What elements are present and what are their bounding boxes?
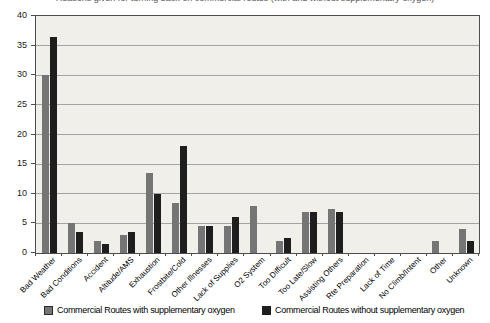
bar-with-oxygen (120, 235, 127, 253)
category-group (166, 16, 192, 253)
bar-with-oxygen (250, 206, 257, 253)
category-group (245, 16, 271, 253)
category-group (427, 16, 453, 253)
x-axis-tick (87, 253, 88, 256)
x-axis-tick (348, 253, 349, 256)
x-axis-tick (139, 253, 140, 256)
x-axis-label: Unknown (445, 256, 474, 285)
category-group (88, 16, 114, 253)
x-axis-label: Other (429, 256, 449, 276)
bar-with-oxygen (42, 75, 49, 253)
legend-item-without-oxygen: Commercial Routes without supplementary … (262, 305, 464, 315)
x-axis-tick (374, 253, 375, 256)
x-axis-tick (113, 253, 114, 256)
bar-without-oxygen (128, 232, 135, 253)
x-axis-tick (452, 253, 453, 256)
x-axis-tick (243, 253, 244, 256)
bar-with-oxygen (432, 241, 439, 253)
x-axis-tick (270, 253, 271, 256)
category-group (192, 16, 218, 253)
x-axis-tick (400, 253, 401, 256)
legend-label-with-oxygen: Commercial Routes with supplementary oxy… (57, 305, 235, 315)
bar-without-oxygen (180, 146, 187, 253)
bar-without-oxygen (232, 217, 239, 253)
bar-without-oxygen (336, 212, 343, 253)
x-axis-tick (61, 253, 62, 256)
category-group (349, 16, 375, 253)
bar-chart: Reasons given for turning back on commer… (0, 0, 490, 323)
category-group (140, 16, 166, 253)
y-axis-tick-label: 15 (0, 159, 27, 168)
legend-label-without-oxygen: Commercial Routes without supplementary … (275, 305, 464, 315)
bar-with-oxygen (198, 226, 205, 253)
clipped-chart-title: Reasons given for turning back on commer… (0, 0, 490, 3)
bar-series (36, 16, 479, 253)
category-group (36, 16, 62, 253)
y-axis-tick-label: 30 (0, 70, 27, 79)
x-axis-tick (322, 253, 323, 256)
y-axis-tick-label: 40 (0, 11, 27, 20)
category-group (323, 16, 349, 253)
bar-without-oxygen (76, 232, 83, 253)
x-axis-tick (296, 253, 297, 256)
plot-area (35, 15, 480, 254)
legend: Commercial Routes with supplementary oxy… (0, 305, 490, 317)
legend-swatch-with-oxygen-icon (44, 306, 53, 315)
legend-swatch-without-oxygen-icon (262, 306, 271, 315)
bar-without-oxygen (310, 212, 317, 253)
category-group (297, 16, 323, 253)
category-group (401, 16, 427, 253)
x-axis-tick (165, 253, 166, 256)
x-axis-tick (217, 253, 218, 256)
bar-without-oxygen (467, 241, 474, 253)
y-axis-tick-label: 10 (0, 189, 27, 198)
y-axis-tick-label: 5 (0, 218, 27, 227)
category-group (375, 16, 401, 253)
bar-without-oxygen (50, 37, 57, 253)
bar-with-oxygen (68, 223, 75, 253)
bar-without-oxygen (206, 226, 213, 253)
y-axis-tick-label: 25 (0, 100, 27, 109)
bar-with-oxygen (94, 241, 101, 253)
category-group (114, 16, 140, 253)
category-group (62, 16, 88, 253)
x-axis-tick (478, 253, 479, 256)
bar-without-oxygen (284, 238, 291, 253)
y-axis-tick-label: 20 (0, 130, 27, 139)
bar-with-oxygen (146, 173, 153, 253)
x-axis-tick (191, 253, 192, 256)
bar-without-oxygen (102, 244, 109, 253)
bar-with-oxygen (224, 226, 231, 253)
category-group (271, 16, 297, 253)
x-axis-tick (35, 253, 36, 256)
bar-without-oxygen (154, 194, 161, 253)
category-group (453, 16, 479, 253)
bar-with-oxygen (276, 241, 283, 253)
legend-item-with-oxygen: Commercial Routes with supplementary oxy… (44, 305, 235, 315)
y-axis-tick-label: 35 (0, 41, 27, 50)
y-axis-tick-label: 0 (0, 248, 27, 257)
x-axis-tick (426, 253, 427, 256)
bar-with-oxygen (302, 212, 309, 253)
category-group (218, 16, 244, 253)
bar-with-oxygen (172, 203, 179, 253)
bar-with-oxygen (459, 229, 466, 253)
bar-with-oxygen (328, 209, 335, 253)
